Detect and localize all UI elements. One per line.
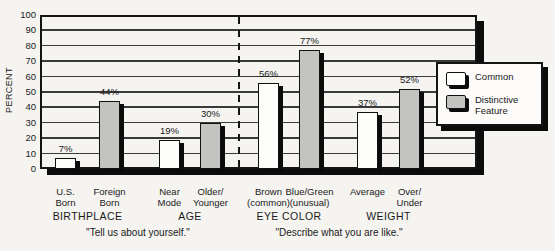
bar-near-mode — [159, 140, 180, 169]
legend-item-distinctive-feature: Distinctive Feature — [446, 94, 533, 116]
section-caption: "Describe what you are like." — [224, 227, 454, 238]
bar-u-s-born — [55, 158, 76, 169]
bar-value-label: 77% — [288, 35, 332, 47]
bar-value-label: 44% — [88, 86, 132, 98]
bar-brown-common — [258, 83, 279, 169]
y-tick-label-10: 10 — [6, 149, 36, 159]
y-tick-label-60: 60 — [6, 72, 36, 82]
bar-foreign-born — [99, 101, 120, 169]
y-tick-label-80: 80 — [6, 41, 36, 51]
legend-item-label: Distinctive Feature — [475, 94, 518, 116]
bar-blue-green-unusual — [299, 50, 320, 169]
legend: CommonDistinctive Feature — [436, 62, 543, 126]
bar-over-under — [399, 89, 420, 169]
gridline-80 — [42, 45, 475, 47]
y-tick-label-100: 100 — [6, 10, 36, 20]
y-tick-label-0: 0 — [6, 164, 36, 174]
y-tick-label-40: 40 — [6, 102, 36, 112]
bar-average — [357, 112, 378, 169]
section-divider-dashed-line — [238, 17, 240, 168]
bar-value-label: 56% — [247, 68, 291, 80]
bar-value-label: 30% — [189, 108, 233, 120]
legend-swatch-distinctive-feature — [446, 95, 466, 109]
bar-older-younger — [200, 123, 221, 169]
legend-item-label: Common — [475, 71, 514, 82]
legend-item-common: Common — [446, 71, 533, 86]
y-tick-label-70: 70 — [6, 56, 36, 66]
section-caption: "Tell us about yourself." — [23, 227, 253, 238]
bar-value-label: 19% — [148, 125, 192, 137]
bar-value-label: 37% — [346, 97, 390, 109]
category-label-over-under: Over/ Under — [374, 187, 446, 208]
y-tick-label-50: 50 — [6, 87, 36, 97]
bar-value-label: 52% — [388, 74, 432, 86]
bar-value-label: 7% — [44, 143, 88, 155]
bar-chart-figure: PERCENT 10090807060504030201007%U.S. Bor… — [0, 0, 555, 251]
y-tick-label-30: 30 — [6, 118, 36, 128]
legend-swatch-common — [446, 72, 466, 86]
gridline-90 — [42, 29, 475, 31]
y-tick-label-90: 90 — [6, 25, 36, 35]
gridline-70 — [42, 60, 475, 62]
y-tick-label-20: 20 — [6, 133, 36, 143]
group-label-weight: WEIGHT — [329, 210, 449, 222]
